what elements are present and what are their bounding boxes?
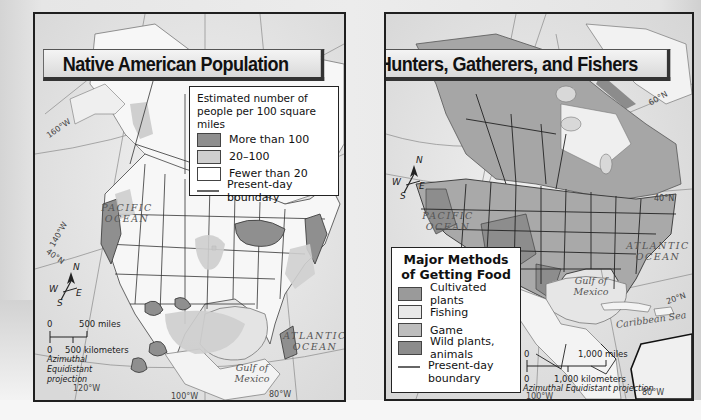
legend-item-20-100: 20–100 — [197, 148, 331, 165]
scale-miles-label: 500 miles — [79, 319, 121, 329]
legend-item-boundary: Present-day boundary — [398, 357, 514, 389]
scale-km-label: 500 kilometers — [65, 345, 129, 355]
longitude-label: 100°W — [171, 392, 198, 401]
swatch-icon — [197, 133, 221, 147]
scale-zero-km: 0 — [47, 345, 52, 355]
atlantic-ocean-label: ATLANTIC OCEAN — [275, 330, 346, 352]
scale-bar — [49, 331, 129, 345]
legend-heading: Major Methods of Getting Food — [398, 252, 514, 282]
scale-miles-label: 1,000 miles — [578, 349, 628, 359]
compass-rose: N W E S — [47, 266, 87, 306]
swatch-icon — [398, 287, 422, 301]
legend-item-wild-plants-animals: Wild plants, animals — [398, 339, 514, 357]
population-legend: Estimated number of people per 100 squar… — [189, 86, 339, 196]
map-title: Native American Population — [43, 49, 324, 81]
page-bottom-margin — [0, 400, 701, 420]
swatch-icon — [398, 305, 422, 319]
native-american-population-map: Native American Population PACIFIC OCEAN… — [33, 12, 346, 402]
scale-km-label: 1,000 kilometers — [554, 374, 626, 384]
legend-item-boundary: Present-day boundary — [197, 182, 331, 199]
longitude-label: 80°W — [269, 390, 291, 399]
projection-label: Azimuthal Equidistant projection — [47, 355, 127, 385]
swatch-icon — [398, 323, 422, 337]
scale-bar — [526, 360, 626, 374]
boundary-line-icon — [398, 366, 420, 368]
gulf-of-mexico-label: Gulf of Mexico — [227, 362, 277, 384]
map-title: Hunters, Gatherers, and Fishers — [384, 49, 670, 81]
legend-item-more-than-100: More than 100 — [197, 131, 331, 148]
swatch-icon — [398, 341, 422, 355]
food-methods-legend: Major Methods of Getting Food Cultivated… — [391, 247, 521, 393]
scale-zero-km: 0 — [524, 374, 529, 384]
swatch-icon — [197, 150, 221, 164]
gulf-of-mexico-label: Gulf of Mexico — [566, 275, 616, 297]
pacific-ocean-label: PACIFIC OCEAN — [87, 202, 167, 224]
legend-heading: Estimated number of people per 100 squar… — [197, 92, 331, 131]
scale-zero-miles: 0 — [524, 349, 529, 359]
projection-label: Azimuthal Equidistant projection — [523, 384, 653, 394]
scale-zero-miles: 0 — [47, 319, 52, 329]
swatch-icon — [197, 167, 221, 181]
legend-item-cultivated-plants: Cultivated plants — [398, 285, 514, 303]
compass-rose: N W E S — [390, 159, 430, 199]
atlantic-ocean-label: ATLANTIC OCEAN — [618, 240, 694, 262]
pacific-ocean-label: PACIFIC OCEAN — [408, 210, 488, 232]
boundary-line-icon — [197, 190, 219, 192]
latitude-label: 40°N — [654, 194, 674, 203]
longitude-label: 120°W — [73, 384, 100, 393]
